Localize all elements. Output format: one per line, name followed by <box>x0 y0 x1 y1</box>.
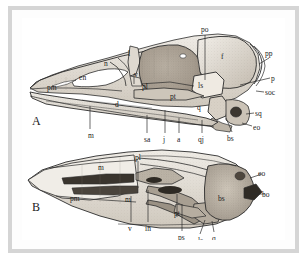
skull-illustration <box>22 18 285 240</box>
panel-b-label-pt: pt <box>174 210 180 218</box>
panel-a-label-q: q <box>197 104 201 112</box>
panel-a-label-l: l <box>128 50 130 58</box>
panel-a-label-n: n <box>104 60 108 68</box>
panel-a-label-j: j <box>163 136 165 144</box>
panel-b-skull <box>28 150 262 228</box>
panel-a-label-po: po <box>201 26 209 34</box>
figure-root: A B popppsocsqeobsflsqptplvlnenpmdmsajaq… <box>0 0 307 265</box>
panel-letter-b: B <box>32 200 40 215</box>
anatomical-plate: A B popppsocsqeobsflsqptplvlnenpmdmsajaq… <box>22 18 285 240</box>
panel-a-label-sa: sa <box>144 136 150 144</box>
panel-a-label-bs: bs <box>227 135 234 143</box>
panel-a-label-m: m <box>88 132 94 140</box>
panel-b-label-in: in <box>145 225 151 233</box>
panel-b-label-m1: m <box>98 164 104 172</box>
panel-a-label-en: en <box>79 74 86 82</box>
panel-letter-a: A <box>32 114 41 129</box>
panel-a-label-pp: pp <box>265 50 273 58</box>
panel-a-label-p: p <box>271 75 275 83</box>
panel-b-label-pm: pm <box>70 195 80 203</box>
panel-a-label-soc: soc <box>265 89 275 97</box>
panel-a-label-f: f <box>221 53 224 61</box>
panel-a-label-pm: pm <box>47 84 57 92</box>
panel-b-label-eo: eo <box>258 170 265 178</box>
panel-b-label-bs: bs <box>218 195 225 203</box>
panel-b-label-ls: ls <box>198 237 203 240</box>
panel-b-label-m2: m <box>125 196 131 204</box>
panel-b-label-v: v <box>128 225 132 233</box>
panel-a-label-pl: pl <box>142 83 148 91</box>
panel-a-label-ls: ls <box>198 82 203 90</box>
panel-a-label-pt: pt <box>170 93 176 101</box>
panel-a-label-eo: eo <box>253 124 260 132</box>
panel-b-label-q: q <box>212 235 216 240</box>
panel-b-label-pl: pl <box>135 154 141 162</box>
panel-a-label-qj: qj <box>198 136 204 144</box>
panel-b-label-bo: bo <box>262 191 270 199</box>
panel-a-label-a: a <box>177 136 180 144</box>
panel-b-label-ps: ps <box>178 234 185 240</box>
panel-a-label-sq: sq <box>255 110 262 118</box>
panel-a-label-d: d <box>115 101 119 109</box>
panel-a-label-v: v <box>134 71 138 79</box>
